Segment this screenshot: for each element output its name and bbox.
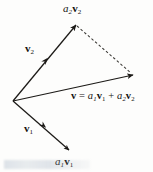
vector-canvas xyxy=(0,0,153,172)
label-a2v2: a2v2 xyxy=(63,3,81,16)
label-v1-vec-sub: 1 xyxy=(30,128,34,136)
label-a1v1-vec-sub: 1 xyxy=(70,161,74,169)
label-v2-vec-sub: 2 xyxy=(31,48,35,56)
label-v1: v1 xyxy=(24,123,33,136)
label-a2v2-vec-sub: 2 xyxy=(78,8,82,16)
parallelogram-dashed-side xyxy=(77,26,131,73)
label-v2: v2 xyxy=(25,43,34,56)
label-equation: v = a1v1 + a2v2 xyxy=(71,91,135,103)
vector-diagram-figure: a2v2 v2 v1 a1v1 v = a1v1 + a2v2 xyxy=(0,0,153,172)
label-a1v1: a1v1 xyxy=(55,156,73,169)
equation-term2-vec-sub: 2 xyxy=(131,95,134,102)
